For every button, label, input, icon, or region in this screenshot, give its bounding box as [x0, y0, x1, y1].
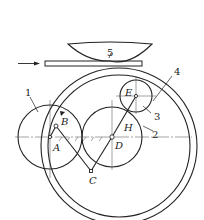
label-E: E: [124, 87, 133, 98]
label-4: 4: [174, 66, 180, 77]
joint-A: [48, 135, 51, 138]
label-B: B: [60, 116, 68, 127]
link-CD: [91, 137, 112, 171]
joint-D: [110, 135, 114, 139]
label-1: 1: [25, 87, 31, 98]
feed-arrow-head-icon: [34, 62, 40, 66]
joint-E: [134, 94, 137, 97]
mechanism-diagram: 1 2 3 4 5 A B C D E H: [0, 0, 204, 220]
label-D: D: [114, 140, 123, 151]
label-3: 3: [154, 111, 160, 122]
leader-4: [153, 76, 172, 101]
label-C: C: [89, 175, 97, 186]
label-H: H: [123, 122, 133, 133]
feed-strip: [45, 61, 142, 66]
label-5: 5: [107, 47, 113, 58]
link-BC: [56, 126, 91, 171]
label-A: A: [52, 142, 60, 153]
joint-C: [90, 170, 93, 173]
label-2: 2: [152, 129, 158, 140]
joint-B: [54, 124, 58, 128]
